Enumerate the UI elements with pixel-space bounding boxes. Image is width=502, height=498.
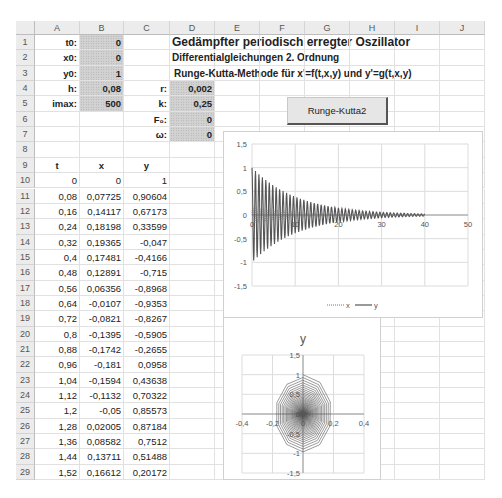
row-header-29[interactable]: 29: [16, 465, 35, 480]
row-header-25[interactable]: 25: [16, 403, 35, 418]
column-header-d[interactable]: D: [170, 21, 215, 35]
title-sub2[interactable]: Runge-Kutta-Methode für x'=f(t,x,y) und …: [170, 66, 215, 81]
cell-e2[interactable]: [215, 50, 260, 65]
time-series-chart[interactable]: 1,510,50-0,5-1-1,501020304050xy: [223, 131, 483, 318]
phase-portrait-chart[interactable]: y1,510,50-0,5-1-1,5-0,4-0,200,20,4: [223, 317, 381, 480]
cell-c3[interactable]: [124, 66, 170, 81]
cell-b8[interactable]: [80, 142, 124, 157]
column-header-h[interactable]: H: [350, 21, 395, 35]
cell-f4[interactable]: [260, 81, 305, 96]
row-header-1[interactable]: 1: [16, 35, 35, 50]
table-cell-y[interactable]: 0,87184: [124, 419, 170, 434]
row-header-5[interactable]: 5: [16, 96, 35, 111]
cell-i23[interactable]: [395, 373, 440, 388]
table-cell-x[interactable]: 0,18198: [80, 219, 124, 234]
column-header-f[interactable]: F: [260, 21, 305, 35]
cell-d10[interactable]: [170, 173, 215, 188]
cell-e3[interactable]: [215, 66, 260, 81]
runge-kutta2-button[interactable]: Runge-Kutta2: [287, 97, 388, 125]
row-header-22[interactable]: 22: [16, 357, 35, 372]
table-cell-x[interactable]: 0,14117: [80, 204, 124, 219]
table-cell-x[interactable]: 0,06356: [80, 281, 124, 296]
row-header-13[interactable]: 13: [16, 219, 35, 234]
table-cell-x[interactable]: -0,1395: [80, 327, 124, 342]
table-cell-y[interactable]: 0,90604: [124, 189, 170, 204]
row-header-19[interactable]: 19: [16, 311, 35, 326]
cell-d21[interactable]: [170, 342, 215, 357]
param-input-x0[interactable]: 0: [80, 50, 124, 65]
cell-j6[interactable]: [440, 112, 485, 127]
table-cell-x[interactable]: 0,02005: [80, 419, 124, 434]
table-cell-y[interactable]: 0,51488: [124, 449, 170, 464]
cell-i6[interactable]: [395, 112, 440, 127]
table-cell-y[interactable]: 0,67173: [124, 204, 170, 219]
cell-g2[interactable]: [305, 50, 350, 65]
param-input-y0[interactable]: 1: [80, 66, 124, 81]
table-cell-x[interactable]: 0: [80, 173, 124, 188]
table-cell-x[interactable]: 0,07725: [80, 189, 124, 204]
cell-j23[interactable]: [440, 373, 485, 388]
title-main[interactable]: Gedämpfter periodisch erregter Oszillato…: [170, 35, 215, 50]
cell-d11[interactable]: [170, 189, 215, 204]
cell-j24[interactable]: [440, 388, 485, 403]
cell-d8[interactable]: [170, 142, 215, 157]
table-cell-x[interactable]: -0,05: [80, 403, 124, 418]
column-header-c[interactable]: C: [124, 21, 170, 35]
column-header-j[interactable]: J: [440, 21, 485, 35]
row-header-14[interactable]: 14: [16, 235, 35, 250]
param-input-t0[interactable]: 0: [80, 35, 124, 50]
table-header-y[interactable]: y: [124, 158, 170, 173]
param-input-k[interactable]: 0,25: [170, 96, 215, 111]
cell-i3[interactable]: [395, 66, 440, 81]
param-label-r[interactable]: r:: [124, 81, 170, 96]
table-cell-x[interactable]: 0,12891: [80, 265, 124, 280]
table-cell-y[interactable]: 0,7512: [124, 434, 170, 449]
cell-d18[interactable]: [170, 296, 215, 311]
cell-d22[interactable]: [170, 357, 215, 372]
cell-b7[interactable]: [80, 127, 124, 142]
table-cell-t[interactable]: 0,16: [35, 204, 80, 219]
table-cell-y[interactable]: 0,43638: [124, 373, 170, 388]
cell-d23[interactable]: [170, 373, 215, 388]
cell-d15[interactable]: [170, 250, 215, 265]
param-label-imax[interactable]: imax:: [35, 96, 80, 111]
cell-i1[interactable]: [395, 35, 440, 50]
table-cell-y[interactable]: 0,0958: [124, 357, 170, 372]
cell-i26[interactable]: [395, 419, 440, 434]
table-cell-y[interactable]: -0,5905: [124, 327, 170, 342]
table-cell-t[interactable]: 0,8: [35, 327, 80, 342]
table-cell-x[interactable]: -0,1742: [80, 342, 124, 357]
column-header-e[interactable]: E: [215, 21, 260, 35]
table-cell-y[interactable]: -0,2655: [124, 342, 170, 357]
cell-i27[interactable]: [395, 434, 440, 449]
table-cell-y[interactable]: 0,20172: [124, 465, 170, 480]
row-header-18[interactable]: 18: [16, 296, 35, 311]
cell-d13[interactable]: [170, 219, 215, 234]
cell-f2[interactable]: [260, 50, 305, 65]
cell-j3[interactable]: [440, 66, 485, 81]
cell-j27[interactable]: [440, 434, 485, 449]
cell-i4[interactable]: [395, 81, 440, 96]
cell-d29[interactable]: [170, 465, 215, 480]
table-cell-x[interactable]: -0,0107: [80, 296, 124, 311]
table-cell-t[interactable]: 1,36: [35, 434, 80, 449]
table-cell-x[interactable]: 0,13711: [80, 449, 124, 464]
table-cell-t[interactable]: 1,44: [35, 449, 80, 464]
row-header-28[interactable]: 28: [16, 449, 35, 464]
cell-f3[interactable]: [260, 66, 305, 81]
cell-a8[interactable]: [35, 142, 80, 157]
column-header-g[interactable]: G: [305, 21, 350, 35]
cell-j26[interactable]: [440, 419, 485, 434]
cell-c8[interactable]: [124, 142, 170, 157]
cell-d12[interactable]: [170, 204, 215, 219]
cell-e5[interactable]: [215, 96, 260, 111]
table-cell-t[interactable]: 1,28: [35, 419, 80, 434]
table-cell-y[interactable]: -0,9353: [124, 296, 170, 311]
title-sub1[interactable]: Differentialgleichungen 2. Ordnung: [170, 50, 215, 65]
cell-g1[interactable]: [305, 35, 350, 50]
param-label-k[interactable]: k:: [124, 96, 170, 111]
param-input-f0[interactable]: 0: [170, 112, 215, 127]
cell-a7[interactable]: [35, 127, 80, 142]
cell-d28[interactable]: [170, 449, 215, 464]
table-cell-t[interactable]: 0,08: [35, 189, 80, 204]
